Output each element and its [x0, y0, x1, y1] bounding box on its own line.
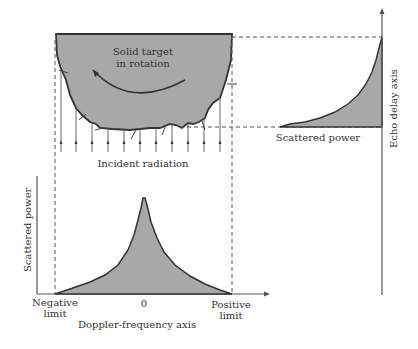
target-label-line2: in rotation [116, 58, 170, 69]
positive-limit-label: Positive [211, 299, 251, 310]
axis-arrow-icon [380, 8, 385, 14]
zero-label: 0 [141, 298, 147, 309]
negative-limit-label-2: limit [43, 308, 66, 319]
doppler-x-axis-label: Doppler-frequency axis [78, 319, 196, 330]
incident-arrowheads [60, 140, 222, 144]
positive-limit-label-2: limit [219, 310, 242, 321]
target-label-line1: Solid target [113, 46, 173, 57]
radar-scattering-diagram: Solid target in rotation Incident radiat… [0, 0, 418, 349]
delay-power-curve [280, 37, 382, 127]
echo-delay-axis-label: Echo delay axis [388, 69, 399, 148]
doppler-y-axis-label: Scattered power [22, 187, 33, 272]
incident-radiation-label: Incident radiation [97, 158, 189, 169]
axis-arrow-icon [264, 292, 270, 297]
doppler-spectrum-curve [55, 198, 232, 294]
delay-curve-label: Scattered power [276, 132, 361, 143]
negative-limit-label: Negative [32, 297, 78, 308]
